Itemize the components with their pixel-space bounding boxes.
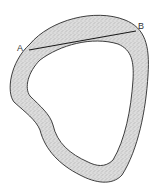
point-label-b: B: [138, 22, 144, 31]
ring-body: [10, 15, 148, 182]
point-label-a: A: [17, 44, 23, 53]
ring-shape-drawing: [0, 0, 157, 189]
diagram-figure: A B: [0, 0, 157, 189]
